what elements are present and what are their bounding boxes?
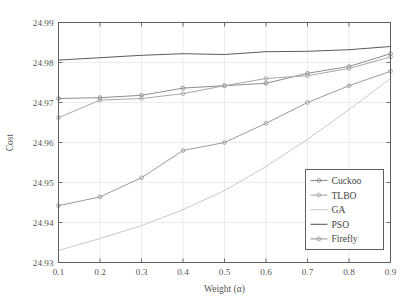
figure: 0.10.20.30.40.50.60.70.80.924.9324.9424.… [0, 0, 409, 306]
legend: CuckooTLBOGAPSOFirefly [306, 170, 384, 250]
chart-canvas: 0.10.20.30.40.50.60.70.80.924.9324.9424.… [0, 0, 409, 306]
ytick-label: 24.98 [33, 58, 54, 68]
ytick-label: 24.95 [33, 178, 54, 188]
legend-label-firefly: Firefly [332, 233, 358, 244]
legend-label-cuckoo: Cuckoo [332, 175, 362, 186]
legend-label-tlbo: TLBO [332, 190, 357, 201]
ytick-label: 24.97 [33, 98, 54, 108]
xtick-label: 0.5 [219, 267, 231, 277]
xtick-label: 0.6 [260, 267, 272, 277]
ytick-label: 24.93 [33, 258, 54, 268]
ytick-label: 24.99 [33, 18, 54, 28]
legend-label-ga: GA [332, 204, 346, 215]
xtick-label: 0.1 [53, 267, 65, 277]
ytick-label: 24.94 [33, 218, 54, 228]
legend-label-pso: PSO [332, 219, 350, 230]
xtick-label: 0.9 [385, 267, 397, 277]
xtick-label: 0.8 [343, 267, 355, 277]
ytick-label: 24.96 [33, 138, 54, 148]
y-axis-title: Cost [5, 133, 15, 151]
xtick-label: 0.4 [177, 267, 189, 277]
x-axis-title: Weight (α) [204, 284, 245, 295]
xtick-label: 0.3 [136, 267, 148, 277]
xtick-label: 0.7 [302, 267, 314, 277]
xtick-label: 0.2 [94, 267, 106, 277]
